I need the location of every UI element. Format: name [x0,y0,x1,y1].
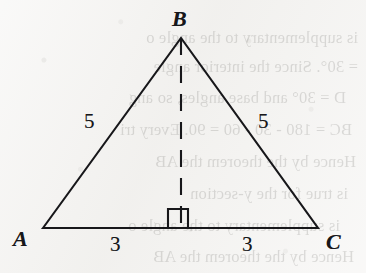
vertex-label-a: A [13,228,28,250]
side-length-label-left-base: 3 [110,234,121,255]
vertex-label-b: B [172,8,187,30]
figure-canvas: is supplementary to the angle o = 30°. S… [0,0,366,273]
side-length-label-right-leg: 5 [258,111,269,132]
side-length-label-right-base: 3 [242,234,253,255]
triangle-figure [0,0,366,273]
vertex-label-c: C [326,231,341,253]
right-angle-square-icon [168,209,188,228]
side-length-label-left-leg: 5 [84,111,95,132]
